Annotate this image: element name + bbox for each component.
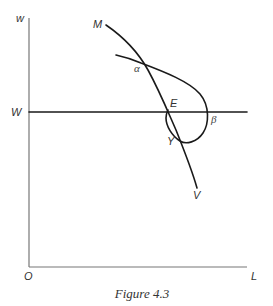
alpha-label: α <box>134 62 140 74</box>
y-point-label: Y <box>167 135 175 147</box>
y-axis-label: w <box>16 12 25 24</box>
origin-label: O <box>24 270 33 282</box>
x-axis-label: L <box>251 270 257 282</box>
v-label: V <box>193 189 202 201</box>
m-label: M <box>93 18 103 30</box>
mv-curve <box>106 25 197 188</box>
figure-diagram: w W O L M V α β E Y Figure 4.3 <box>0 0 273 306</box>
e-label: E <box>170 97 178 109</box>
figure-caption: Figure 4.3 <box>114 286 170 301</box>
w-line-label: W <box>11 106 23 118</box>
beta-label: β <box>210 113 217 125</box>
